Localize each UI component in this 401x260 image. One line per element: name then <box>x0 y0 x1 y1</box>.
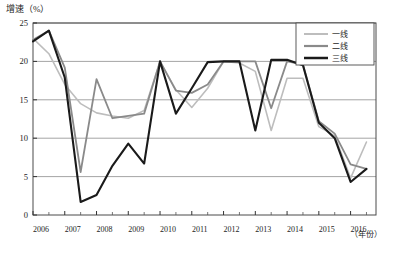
x-tick-label: 2010 <box>160 225 176 234</box>
y-tick-label: 15 <box>20 95 29 105</box>
legend-label-三线: 三线 <box>332 53 348 63</box>
y-tick-label: 10 <box>20 133 29 143</box>
line-chart: 增速（%） 0510152025 20062007200820092010201… <box>0 0 401 260</box>
legend-label-一线: 一线 <box>332 29 348 39</box>
x-tick-label: 2015 <box>319 225 335 234</box>
x-tick-label: 2009 <box>128 225 144 234</box>
x-tick-label: 2011 <box>192 225 208 234</box>
x-tick-label: 2013 <box>255 225 271 234</box>
chart-svg: 0510152025 20062007200820092010201120122… <box>0 0 401 260</box>
x-tick-label: 2008 <box>96 225 112 234</box>
x-axis-tick-labels: 2006200720082009201020112012201320142015… <box>33 225 367 234</box>
y-tick-label: 25 <box>20 18 29 28</box>
x-tick-label: 2007 <box>65 225 81 234</box>
legend: 一线二线三线 <box>296 23 374 65</box>
x-tick-label: 2012 <box>223 225 239 234</box>
x-axis-unit-label: （年份） <box>350 229 382 239</box>
x-axis-ticks <box>33 211 366 215</box>
y-axis-ticks <box>33 23 37 215</box>
x-tick-label: 2014 <box>287 225 303 234</box>
x-tick-label: 2006 <box>33 225 49 234</box>
legend-label-二线: 二线 <box>332 41 348 51</box>
y-tick-label: 20 <box>20 56 29 66</box>
y-tick-label: 5 <box>24 172 28 182</box>
y-axis-tick-labels: 0510152025 <box>20 18 29 220</box>
y-tick-label: 0 <box>24 210 28 220</box>
